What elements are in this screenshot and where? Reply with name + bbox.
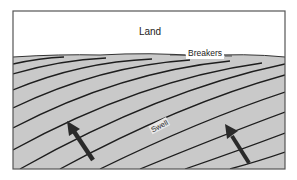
wave-refraction-diagram: Land Breakers Swell xyxy=(0,0,297,180)
land-label: Land xyxy=(139,26,161,37)
breakers-label: Breakers xyxy=(188,48,222,58)
